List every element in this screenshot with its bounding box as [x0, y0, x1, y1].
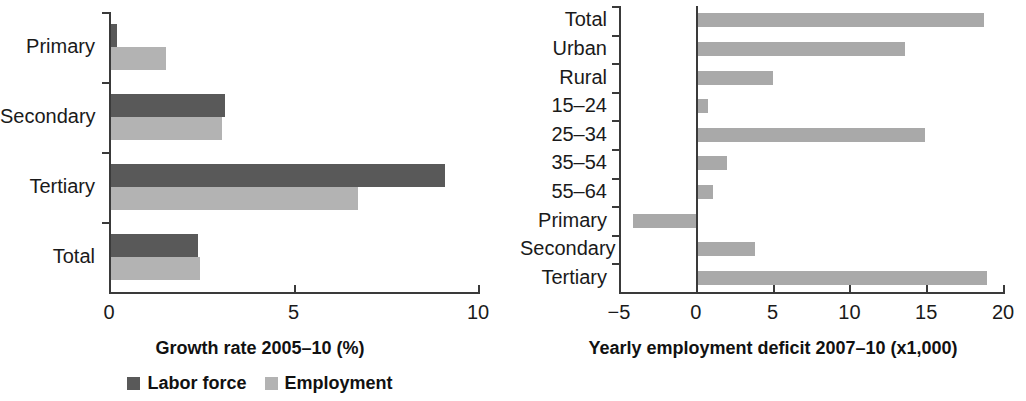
- x-axis-tick-label: 15: [886, 302, 966, 322]
- x-axis-tick-label: 5: [254, 302, 334, 322]
- x-axis-tick: [294, 285, 296, 292]
- bar-labor-force-total: [111, 234, 198, 257]
- category-label-right-25–34: 25–34: [520, 124, 607, 144]
- y-axis-line: [619, 6, 621, 294]
- legend-label: Employment: [285, 374, 393, 392]
- x-axis-tick: [926, 285, 928, 292]
- legend-swatch-employment: [265, 377, 278, 390]
- legend-item-labor-force: Labor force: [127, 374, 246, 392]
- y-axis-tick: [612, 92, 619, 94]
- bar-deficit-primary: [633, 214, 696, 228]
- bar-deficit-35–54: [698, 156, 727, 170]
- bar-employment-secondary: [111, 117, 222, 140]
- legend-label: Labor force: [147, 374, 246, 392]
- y-axis-tick: [612, 149, 619, 151]
- bar-deficit-55–64: [698, 185, 713, 199]
- bar-employment-total: [111, 257, 200, 280]
- category-label-right-total: Total: [520, 9, 607, 29]
- category-label-left-primary: Primary: [0, 36, 95, 56]
- x-axis-tick: [478, 285, 480, 292]
- bar-deficit-secondary: [698, 242, 755, 256]
- bar-labor-force-tertiary: [111, 164, 445, 187]
- bar-labor-force-primary: [111, 24, 117, 47]
- legend-item-employment: Employment: [265, 374, 393, 392]
- category-label-left-tertiary: Tertiary: [0, 176, 95, 196]
- x-axis-line: [109, 292, 480, 294]
- category-label-right-primary: Primary: [520, 210, 607, 230]
- bar-deficit-15–24: [698, 99, 708, 113]
- y-axis-tick: [612, 35, 619, 37]
- x-axis-tick: [109, 285, 111, 292]
- y-axis-tick: [612, 263, 619, 265]
- category-label-right-urban: Urban: [520, 38, 607, 58]
- chart-employment-deficit: TotalUrbanRural15–2425–3435–5455–64Prima…: [520, 0, 1026, 401]
- x-axis-tick-label: 20: [963, 302, 1026, 322]
- y-axis-tick: [612, 63, 619, 65]
- x-axis-title-growth-rate: Growth rate 2005–10 (%): [0, 338, 520, 358]
- bar-labor-force-secondary: [111, 94, 225, 117]
- category-label-right-secondary: Secondary: [520, 238, 607, 258]
- x-axis-title-employment-deficit: Yearly employment deficit 2007–10 (x1,00…: [520, 338, 1026, 358]
- category-label-left-secondary: Secondary: [0, 106, 95, 126]
- y-axis-tick: [612, 206, 619, 208]
- y-axis-tick: [102, 12, 109, 14]
- y-axis-tick: [102, 152, 109, 154]
- category-label-right-15–24: 15–24: [520, 95, 607, 115]
- bar-deficit-25–34: [698, 128, 925, 142]
- legend-swatch-labor-force: [127, 377, 140, 390]
- chart-legend: Labor forceEmployment: [0, 374, 520, 392]
- bar-employment-tertiary: [111, 187, 358, 210]
- bar-deficit-rural: [698, 71, 773, 85]
- figure-canvas: PrimarySecondaryTertiaryTotal0510 Growth…: [0, 0, 1026, 401]
- category-label-right-35–54: 35–54: [520, 152, 607, 172]
- x-axis-tick-label: −5: [579, 302, 659, 322]
- x-axis-line: [619, 292, 1005, 294]
- category-label-right-55–64: 55–64: [520, 181, 607, 201]
- y-axis-tick: [612, 178, 619, 180]
- y-axis-tick: [612, 120, 619, 122]
- category-label-right-rural: Rural: [520, 67, 607, 87]
- bar-deficit-tertiary: [698, 271, 987, 285]
- x-axis-tick: [849, 285, 851, 292]
- bar-employment-primary: [111, 47, 166, 70]
- y-axis-tick: [612, 6, 619, 8]
- x-axis-tick: [1003, 285, 1005, 292]
- x-axis-tick: [773, 285, 775, 292]
- chart-growth-rate: PrimarySecondaryTertiaryTotal0510 Growth…: [0, 0, 520, 401]
- x-axis-tick-label: 0: [656, 302, 736, 322]
- bar-deficit-total: [698, 13, 984, 27]
- x-axis-tick-label: 0: [69, 302, 149, 322]
- y-axis-tick: [102, 82, 109, 84]
- x-axis-tick: [619, 285, 621, 292]
- y-axis-tick: [102, 222, 109, 224]
- category-label-left-total: Total: [0, 246, 95, 266]
- category-label-right-tertiary: Tertiary: [520, 267, 607, 287]
- x-axis-tick-label: 5: [733, 302, 813, 322]
- x-axis-tick-label: 10: [438, 302, 518, 322]
- x-axis-tick-label: 10: [809, 302, 889, 322]
- bar-deficit-urban: [698, 42, 905, 56]
- x-axis-tick: [696, 285, 698, 292]
